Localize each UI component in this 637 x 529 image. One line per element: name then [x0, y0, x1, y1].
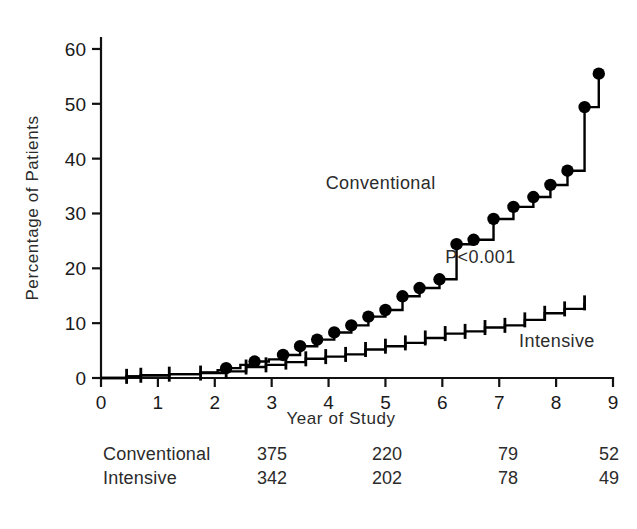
x-axis-group: 0123456789 Year of Study [96, 378, 619, 428]
x-tick-label: 3 [266, 392, 277, 413]
event-marker [433, 273, 445, 285]
y-tick-label: 20 [65, 258, 86, 279]
x-tick-label: 9 [608, 392, 619, 413]
event-marker [379, 304, 391, 316]
y-tick-label: 0 [75, 368, 86, 389]
x-tick-label: 6 [437, 392, 448, 413]
risk-value: 220 [356, 444, 402, 465]
x-axis-title: Year of Study [286, 409, 395, 428]
intensive-step-line [101, 303, 585, 378]
event-marker [294, 340, 306, 352]
event-marker [578, 101, 590, 113]
event-marker [413, 282, 425, 294]
risk-value: 49 [573, 468, 619, 489]
numbers-at-risk-table: Conventional 375 220 79 52 Intensive 342… [0, 444, 637, 500]
risk-value: 78 [472, 468, 518, 489]
risk-value: 342 [241, 468, 287, 489]
event-marker [487, 213, 499, 225]
p-value-annotation: P<0.001 [445, 247, 515, 267]
x-tick-label: 7 [494, 392, 505, 413]
y-tick-label: 60 [65, 39, 86, 60]
conventional-event-markers [220, 67, 605, 374]
risk-value: 52 [573, 444, 619, 465]
x-tick-label: 8 [551, 392, 562, 413]
risk-row-label: Intensive [103, 468, 177, 489]
y-axis-tick-labels: 0102030405060 [65, 39, 86, 389]
risk-value: 79 [472, 444, 518, 465]
event-marker [593, 67, 605, 79]
y-axis-group: 0102030405060 Percentage of Patients [23, 38, 101, 389]
y-axis-ticks [92, 49, 101, 378]
event-marker [311, 333, 323, 345]
event-marker [561, 165, 573, 177]
x-tick-label: 1 [153, 392, 164, 413]
x-axis-ticks [101, 378, 613, 387]
y-tick-label: 30 [65, 203, 86, 224]
event-marker [362, 310, 374, 322]
risk-row-label: Conventional [103, 444, 210, 465]
y-tick-label: 10 [65, 313, 86, 334]
intensive-label-annotation: Intensive [519, 331, 595, 351]
event-marker [527, 191, 539, 203]
y-axis-title: Percentage of Patients [23, 115, 42, 300]
risk-value: 202 [356, 468, 402, 489]
x-tick-label: 0 [96, 392, 107, 413]
event-marker [396, 290, 408, 302]
risk-value: 375 [241, 444, 287, 465]
intensive-censor-markers [127, 295, 585, 383]
figure-container: 0102030405060 Percentage of Patients 012… [0, 0, 637, 529]
conventional-label-annotation: Conventional [326, 173, 436, 193]
event-marker [467, 234, 479, 246]
table-row: Conventional 375 220 79 52 [0, 444, 637, 468]
event-marker [345, 319, 357, 331]
y-tick-label: 50 [65, 94, 86, 115]
event-marker [544, 179, 556, 191]
event-marker [328, 326, 340, 338]
table-row: Intensive 342 202 78 49 [0, 468, 637, 492]
event-marker [277, 349, 289, 361]
y-tick-label: 40 [65, 149, 86, 170]
event-marker [507, 201, 519, 213]
x-tick-label: 2 [209, 392, 220, 413]
series-intensive [101, 295, 585, 383]
